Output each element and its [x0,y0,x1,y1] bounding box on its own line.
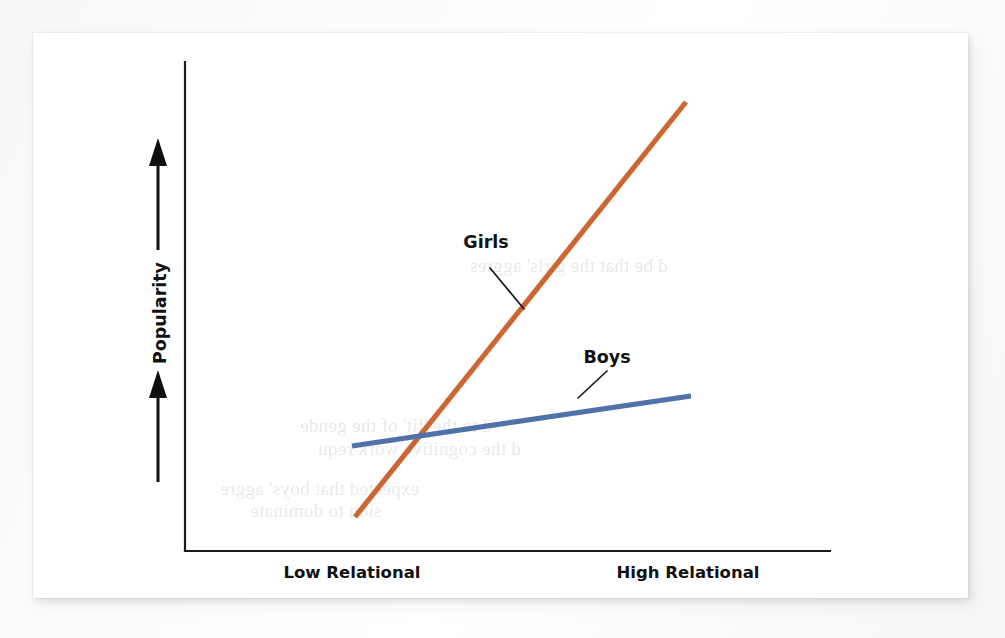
boys-leader-line [578,371,607,398]
y-axis-title: Popularity [150,261,170,364]
figure-page: d be that the girls' aggres d to the 'fi… [0,0,1005,638]
x-tick-label-low-relational: Low Relational [284,563,421,582]
series-line-girls [355,102,686,517]
axis-group [185,62,830,551]
x-tick-label-high-relational: High Relational [617,563,760,582]
y-axis-arrow-upper-head [149,138,167,166]
series-line-boys [352,396,691,446]
chart-canvas: Popularity Girls Boys Low Relational Hig… [0,0,1005,638]
y-axis-arrow-lower [149,370,167,482]
series-label-boys: Boys [583,347,630,367]
girls-leader-line [490,268,524,309]
y-axis-arrow-upper [149,138,167,250]
series-label-girls: Girls [463,232,508,252]
y-axis-arrow-lower-head [149,370,167,398]
